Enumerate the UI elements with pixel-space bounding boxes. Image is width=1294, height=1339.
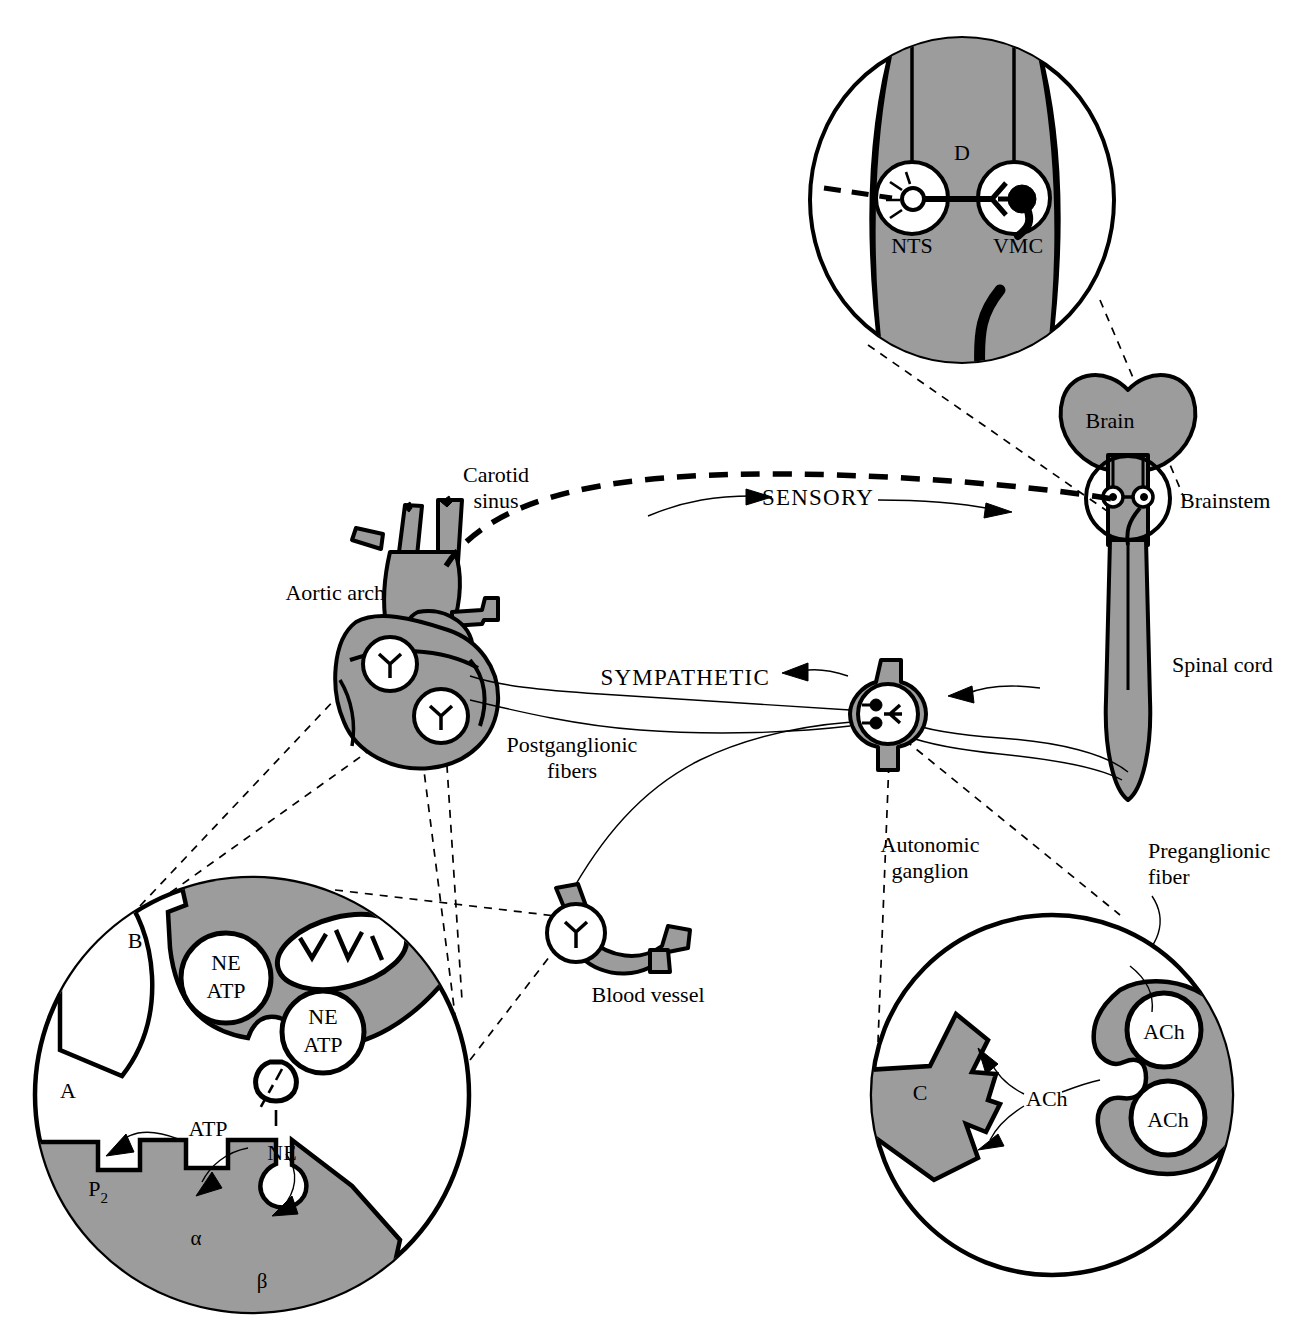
sympathetic-label: SYMPATHETIC [600,665,770,690]
sympathetic-arrow-head [782,663,808,681]
sympathetic-arrow-shaft [802,670,848,676]
inset-ganglionic-synapse: C ACh ACh ACh [862,915,1249,1275]
release-site-pocket [256,1062,297,1101]
heart-and-great-vessels: Aortic arch Carotid sinus [285,462,529,769]
preganglionic-fiber-path [906,736,1122,780]
vesicle-upper-label-atp: ATP [206,978,245,1003]
postganglionic-fiber-branch [470,700,850,733]
receptor-alpha-label: α [190,1226,201,1250]
autonomic-ganglion-label-line2: ganglion [892,858,969,883]
carotid-sinus-label-line2: sinus [473,488,518,513]
vesicle-lower-label-ne: NE [308,1004,337,1029]
vessel-side-branch [650,950,670,972]
sensory-arrow-shaft-right [878,500,992,509]
postganglionic-label-line2: fibers [547,758,597,783]
inset-d-letter: D [954,140,970,165]
sensory-label: SENSORY [762,485,874,510]
brainstem-label: Brainstem [1180,488,1270,513]
heart-body [335,616,498,768]
atp-transmitter-label: ATP [188,1116,227,1141]
ne-transmitter-label: NE [267,1140,296,1165]
leader-ganglion-right [905,740,1120,915]
vesicle-lower-label-atp: ATP [303,1032,342,1057]
preganglionic-label-line2: fiber [1148,864,1190,889]
autonomic-ganglion-label-line1: Autonomic [881,832,980,857]
preganglionic-fiber-path2 [906,722,1128,772]
inset-a-letter: A [60,1078,76,1103]
inset-sympathetic-junction: B A NE ATP NE ATP ATP NE P2 α β [30,860,470,1330]
blood-vessel-label: Blood vessel [591,982,704,1007]
spinal-to-ganglion-arrow-head [948,686,974,703]
cardiac-nerve-terminal-lower [414,689,468,743]
bs-vmc-core [1141,494,1148,501]
carotid-sinus-label-line1: Carotid [463,462,529,487]
autonomic-cardiovascular-diagram: D NTS VMC Brain Brainstem Spinal cord [0,0,1294,1339]
brain-label: Brain [1086,408,1135,433]
ach-transmitter-label: ACh [1026,1086,1068,1111]
inset-b-letter: B [128,928,143,953]
blood-vessel-group: Blood vessel [547,884,705,1007]
subclavian-branch [352,528,383,549]
nts-soma [902,188,924,210]
sensory-arrow-head-right [984,503,1012,518]
vessel-nerve-terminal [547,904,605,962]
vmc-soma [1008,185,1036,213]
postganglionic-label-line1: Postganglionic [507,732,638,757]
preganglionic-label-line1: Preganglionic [1148,838,1270,863]
leader-ganglion-left [878,735,890,1042]
sensory-pathway: SENSORY [446,474,1118,566]
sensory-arrow-shaft-left [648,496,752,516]
receptor-beta-label: β [257,1269,268,1293]
figure-canvas: D NTS VMC Brain Brainstem Spinal cord [0,0,1294,1339]
ach-vesicle-lower-label: ACh [1147,1107,1189,1132]
nts-label: NTS [891,233,933,258]
vesicle-upper-label-ne: NE [211,950,240,975]
spinal-cord-label: Spinal cord [1172,652,1273,677]
inset-c-letter: C [913,1080,928,1105]
cardiac-nerve-terminal-upper [363,637,417,691]
aortic-arch-label: Aortic arch [285,580,385,605]
inset-brainstem-detail: D NTS VMC [810,20,1114,380]
vmc-label: VMC [993,233,1043,258]
cns-brain-spinalcord: Brain Brainstem Spinal cord [1061,375,1273,800]
ach-vesicle-upper-label: ACh [1143,1019,1185,1044]
spinal-to-ganglion-arrow-shaft [966,686,1040,694]
